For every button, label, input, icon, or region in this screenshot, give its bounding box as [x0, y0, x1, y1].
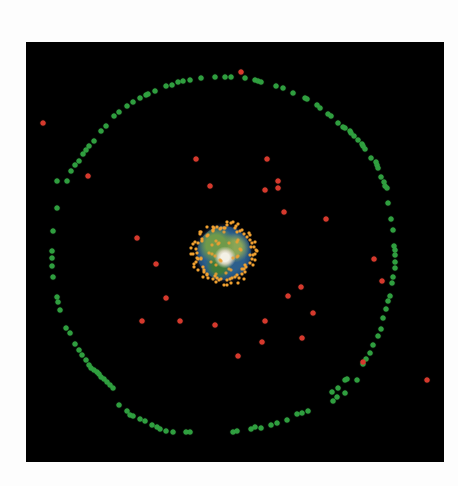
scattered-object-dot — [213, 323, 218, 328]
geo-ring-object-dot — [381, 316, 386, 321]
scattered-object-dot — [311, 311, 316, 316]
geo-ring-object-dot — [69, 169, 74, 174]
geo-ring-object-dot — [146, 92, 151, 97]
geo-ring-object-dot — [80, 353, 85, 358]
geo-ring-object-dot — [393, 266, 398, 271]
geo-ring-object-dot — [125, 104, 130, 109]
scattered-object-dot — [41, 121, 46, 126]
geo-ring-object-dot — [274, 84, 279, 89]
geo-ring-object-dot — [92, 139, 97, 144]
geo-ring-object-dot — [300, 411, 305, 416]
scattered-object-dot — [140, 319, 145, 324]
geo-ring-object-dot — [389, 217, 394, 222]
geo-ring-object-dot — [213, 75, 218, 80]
geo-ring-object-dot — [345, 377, 350, 382]
scattered-object-dot — [300, 336, 305, 341]
geo-ring-object-dot — [50, 249, 55, 254]
geo-ring-object-dot — [229, 75, 234, 80]
scattered-object-dot — [263, 319, 268, 324]
scattered-object-dot — [282, 210, 287, 215]
geo-ring-object-dot — [386, 201, 391, 206]
geo-ring-object-dot — [77, 159, 82, 164]
scattered-object-dot — [164, 296, 169, 301]
scattered-object-dot — [276, 179, 281, 184]
geo-ring-object-dot — [363, 147, 368, 152]
geo-ring-object-dot — [393, 253, 398, 258]
geo-ring-object-dot — [336, 386, 341, 391]
scattered-object-dot — [194, 157, 199, 162]
scattered-object-dot — [324, 217, 329, 222]
geo-ring-object-dot — [235, 429, 240, 434]
scattered-object-dot — [372, 257, 377, 262]
geo-ring-object-dot — [64, 326, 69, 331]
page-background — [0, 0, 458, 486]
geo-ring-object-dot — [385, 186, 390, 191]
geo-ring-object-dot — [376, 166, 381, 171]
geo-ring-object-dot — [111, 386, 116, 391]
geo-ring-object-dot — [117, 110, 122, 115]
geo-ring-object-dot — [164, 429, 169, 434]
geo-ring-object-dot — [104, 124, 109, 129]
geo-ring-object-dot — [153, 89, 158, 94]
geo-ring-object-dot — [73, 163, 78, 168]
geo-ring-object-dot — [275, 421, 280, 426]
geo-ring-object-dot — [390, 281, 395, 286]
geo-ring-object-dot — [164, 84, 169, 89]
geo-ring-object-dot — [55, 179, 60, 184]
geo-ring-object-dot — [51, 275, 56, 280]
scattered-object-dot — [276, 186, 281, 191]
geo-ring-object-dot — [243, 76, 248, 81]
geo-ring-object-dot — [55, 206, 60, 211]
geo-ring-object-dot — [368, 351, 373, 356]
geo-ring-object-dot — [131, 414, 136, 419]
scattered-object-dot — [286, 294, 291, 299]
geo-ring-object-dot — [379, 327, 384, 332]
geo-ring-object-dot — [336, 121, 341, 126]
geo-ring-object-dot — [87, 144, 92, 149]
geo-ring-object-dot — [171, 430, 176, 435]
scattered-object-dot — [154, 262, 159, 267]
geo-ring-object-dot — [384, 307, 389, 312]
geo-ring-object-dot — [330, 390, 335, 395]
geo-ring-object-dot — [371, 343, 376, 348]
geo-ring-object-dot — [335, 395, 340, 400]
geo-ring-object-dot — [99, 129, 104, 134]
geo-ring-object-dot — [112, 114, 117, 119]
geo-ring-object-dot — [355, 378, 360, 383]
geo-ring-object-dot — [188, 78, 193, 83]
geo-ring-object-dot — [305, 97, 310, 102]
geo-ring-object-dot — [51, 229, 56, 234]
geo-ring-object-dot — [117, 403, 122, 408]
geo-ring-object-dot — [259, 426, 264, 431]
geo-ring-object-dot — [188, 430, 193, 435]
scattered-object-dot — [263, 188, 268, 193]
geo-ring-object-dot — [291, 91, 296, 96]
geo-ring-object-dot — [199, 76, 204, 81]
geo-ring-object-dot — [281, 86, 286, 91]
geo-ring-object-dot — [50, 264, 55, 269]
geo-ring-object-dot — [318, 106, 323, 111]
geo-ring-object-dot — [181, 79, 186, 84]
scattered-object-dot — [425, 378, 430, 383]
geo-ring-object-dot — [259, 80, 264, 85]
geo-ring-object-dot — [329, 114, 334, 119]
geo-ring-object-dot — [158, 427, 163, 432]
scattered-object-dot — [86, 174, 91, 179]
geo-ring-object-dot — [253, 425, 258, 430]
geo-ring-object-dot — [376, 334, 381, 339]
geo-ring-object-dot — [285, 418, 290, 423]
scattered-object-dot — [299, 285, 304, 290]
geo-ring-object-dot — [65, 179, 70, 184]
geo-ring-object-dot — [58, 308, 63, 313]
geo-ring-object-dot — [269, 423, 274, 428]
geo-ring-object-dot — [306, 409, 311, 414]
geo-ring-object-dot — [391, 228, 396, 233]
scattered-object-dot — [265, 157, 270, 162]
geo-ring-object-dot — [138, 96, 143, 101]
scattered-object-dot — [239, 70, 244, 75]
scattered-object-dot — [135, 236, 140, 241]
geo-ring-object-dot — [170, 83, 175, 88]
geo-ring-object-dot — [386, 299, 391, 304]
geo-ring-object-dot — [143, 419, 148, 424]
geo-ring-object-dot — [50, 256, 55, 261]
